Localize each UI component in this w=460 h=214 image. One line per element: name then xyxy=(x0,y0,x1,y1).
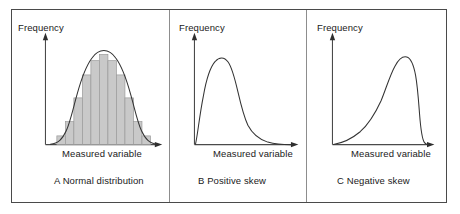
histogram-bar xyxy=(74,98,83,145)
panel-a-plot xyxy=(12,10,169,202)
panel-c-negative-skew-curve xyxy=(333,57,428,145)
panel-a-y-axis xyxy=(43,33,48,145)
statistics-distribution-figure: Frequency xyxy=(0,0,460,214)
histogram-bar xyxy=(108,61,117,145)
panel-c-x-axis xyxy=(332,142,434,147)
panel-a-histogram-bars xyxy=(57,55,151,145)
panel-c-caption: C Negative skew xyxy=(337,175,410,186)
histogram-bar xyxy=(133,122,142,145)
panel-b-x-axis-label: Measured variable xyxy=(213,148,293,159)
panel-a-x-axis-label: Measured variable xyxy=(62,148,142,159)
panel-a-caption: A Normal distribution xyxy=(54,175,144,186)
panel-c-x-axis-label: Measured variable xyxy=(351,148,431,159)
panel-b-positive-skew: Frequency Measured variable B Positive s… xyxy=(170,10,306,202)
panel-b-plot xyxy=(170,10,306,202)
panel-c-plot xyxy=(307,10,446,202)
histogram-bar xyxy=(142,136,151,145)
histogram-bar xyxy=(65,122,74,145)
histogram-bar xyxy=(99,55,108,145)
panel-a-normal-distribution: Frequency xyxy=(12,10,169,202)
panel-c-y-axis xyxy=(330,33,335,145)
histogram-bar xyxy=(91,61,100,145)
panel-c-negative-skew: Frequency Measured variable C Negative s… xyxy=(307,10,446,202)
histogram-bar xyxy=(57,136,66,145)
figure-frame: Frequency xyxy=(11,9,447,203)
panel-b-y-axis xyxy=(192,33,197,145)
histogram-bar xyxy=(125,98,134,145)
panel-b-caption: B Positive skew xyxy=(198,175,266,186)
histogram-bar xyxy=(82,75,91,145)
panel-b-positive-skew-curve xyxy=(195,58,292,145)
histogram-bar xyxy=(116,75,125,145)
